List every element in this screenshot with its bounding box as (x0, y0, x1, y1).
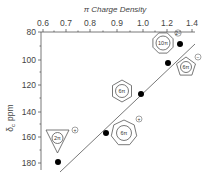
fit-line (60, 44, 195, 172)
charge-plus-icon: + (72, 127, 78, 133)
chart: π Charge Density 0.6 0.7 0.8 0.9 1.0 1.2… (0, 0, 212, 184)
svg-text:+: + (74, 127, 77, 133)
svg-text:−: − (197, 54, 200, 60)
y-axis (38, 32, 41, 170)
svg-text:100: 100 (22, 55, 36, 65)
hexagon-label: 6π (119, 88, 126, 94)
svg-text:0.6: 0.6 (37, 18, 49, 28)
svg-text:1.0: 1.0 (137, 18, 149, 28)
charge-2minus-icon: 2− (175, 30, 181, 36)
svg-text:δcppm: δcppm (5, 104, 16, 131)
data-point (55, 159, 61, 165)
data-points (55, 41, 183, 165)
svg-text:120: 120 (22, 80, 36, 90)
pentagon-label: 6π (183, 64, 190, 70)
data-point (177, 41, 183, 47)
triangle-label: 2π (54, 135, 61, 141)
data-point (165, 60, 171, 66)
svg-text:1.4: 1.4 (186, 18, 198, 28)
heptagon-label: 6π (121, 130, 128, 136)
chart-title: π Charge Density (84, 5, 148, 14)
y-axis-label: δcppm (5, 104, 16, 131)
charge-plus-icon: + (136, 116, 142, 122)
svg-text:160: 160 (22, 132, 36, 142)
charge-minus-icon: − (195, 54, 201, 60)
y-tick-labels: 80 100 120 140 160 180 (22, 27, 36, 168)
octagon-label: 10π (158, 40, 168, 46)
svg-text:80: 80 (27, 27, 37, 37)
x-axis (41, 29, 195, 32)
svg-text:+: + (138, 116, 141, 122)
svg-text:140: 140 (22, 107, 36, 117)
svg-text:2−: 2− (175, 30, 181, 36)
data-point (138, 91, 144, 97)
x-tick-labels: 0.6 0.7 0.8 0.9 1.0 1.2 1.4 (37, 18, 198, 28)
svg-text:0.9: 0.9 (111, 18, 123, 28)
svg-text:0.7: 0.7 (60, 18, 72, 28)
triangle-ring-icon (46, 130, 69, 153)
svg-text:180: 180 (22, 158, 36, 168)
data-point (103, 130, 109, 136)
svg-text:0.8: 0.8 (84, 18, 96, 28)
svg-text:1.2: 1.2 (161, 18, 173, 28)
